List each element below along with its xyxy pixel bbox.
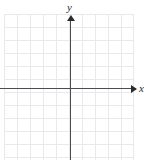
x-axis-arrow-icon — [131, 85, 137, 93]
x-axis-label: x — [139, 83, 144, 94]
coordinate-plane-figure: y x — [0, 0, 149, 160]
y-axis-label: y — [67, 2, 72, 13]
y-axis-arrow-icon — [67, 15, 75, 21]
x-axis-line — [0, 88, 136, 89]
grid-lines — [4, 14, 134, 160]
y-axis-line — [70, 20, 71, 160]
